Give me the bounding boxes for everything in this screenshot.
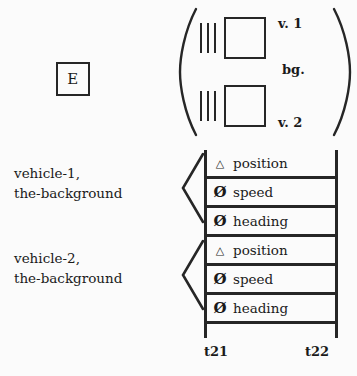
empty-box-icon: [224, 17, 266, 59]
timeline-table: △ position Ø speed Ø heading △ position …: [204, 150, 338, 338]
table-row: Ø speed: [207, 179, 335, 208]
matrix-row-label-2: v. 2: [278, 115, 302, 130]
caption-line: the-background: [14, 268, 122, 288]
slashed-zero-symbol: Ø: [207, 301, 233, 316]
table-row: Ø heading: [207, 295, 335, 324]
table-row-label: position: [233, 242, 288, 258]
angle-bracket-vehicle-2: [180, 239, 206, 311]
table-row-label: heading: [233, 300, 288, 316]
matrix-row-vehicle-2: v. 2: [198, 78, 332, 134]
table-row: △ position: [207, 150, 335, 179]
left-parenthesis: [178, 6, 200, 138]
slashed-zero-symbol: Ø: [207, 185, 233, 200]
slashed-zero-symbol: Ø: [207, 214, 233, 229]
triangle-symbol: △: [207, 245, 233, 256]
tick-bars-icon: [198, 23, 220, 53]
caption-line: vehicle-1,: [14, 163, 122, 183]
table-row: Ø speed: [207, 266, 335, 295]
slashed-zero-symbol: Ø: [207, 272, 233, 287]
angle-bracket-vehicle-1: [180, 152, 206, 224]
table-row: Ø heading: [207, 208, 335, 237]
triangle-symbol: △: [207, 158, 233, 169]
event-box-label: E: [67, 72, 78, 87]
table-row-label: speed: [233, 184, 273, 200]
table-row-label: heading: [233, 213, 288, 229]
matrix-background-label: bg.: [282, 62, 305, 77]
group-caption-vehicle-1: vehicle-1, the-background: [14, 163, 122, 203]
tick-bars-icon: [198, 91, 220, 121]
figure-canvas: E v. 1 v. 2 bg. vehicle-1, the-backgr: [0, 0, 357, 376]
table-row-label: position: [233, 155, 288, 171]
timeline-tick-label-end: t22: [305, 344, 329, 359]
table-row: △ position: [207, 237, 335, 266]
matrix-group: v. 1 v. 2 bg.: [178, 6, 354, 138]
event-box: E: [56, 62, 90, 96]
empty-box-icon: [224, 85, 266, 127]
caption-line: vehicle-2,: [14, 248, 122, 268]
caption-line: the-background: [14, 183, 122, 203]
group-caption-vehicle-2: vehicle-2, the-background: [14, 248, 122, 288]
matrix-row-vehicle-1: v. 1: [198, 10, 332, 66]
right-parenthesis: [330, 6, 352, 138]
timeline-tick-label-start: t21: [204, 344, 228, 359]
table-row-label: speed: [233, 271, 273, 287]
matrix-row-label-1: v. 1: [278, 16, 302, 31]
timeline-axis-end: [335, 150, 338, 338]
